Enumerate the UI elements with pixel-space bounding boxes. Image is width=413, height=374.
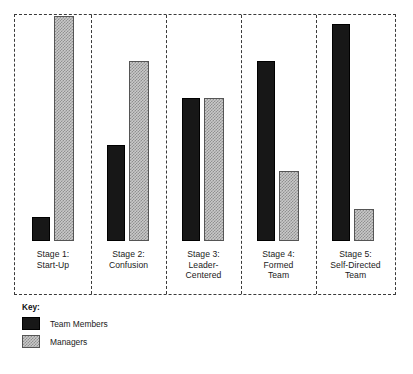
stage-label-3: Stage 3: Leader- Centered [166,249,241,281]
stage-label-1-line-2: Start-Up [15,260,91,271]
bar-chart-figure: Stage 1: Start-Up Stage 2: Confusion Sta… [0,0,413,374]
stage-label-3-line-2: Leader- [166,260,241,271]
chart-legend: Key: Team Members Managers [22,303,242,352]
legend-swatch-team-members-icon [22,317,40,330]
stage-label-2: Stage 2: Confusion [91,249,166,270]
stage-label-5: Stage 5: Self-Directed Team [316,249,395,281]
stage-label-4-line-3: Team [241,270,316,281]
stage-label-5-line-1: Stage 5: [316,249,395,260]
stage-label-3-line-3: Centered [166,270,241,281]
legend-swatch-managers-icon [22,335,40,348]
stage-label-3-line-1: Stage 3: [166,249,241,260]
legend-entry-managers: Managers [22,334,242,349]
stage-label-4-line-2: Formed [241,260,316,271]
stage-label-1-line-1: Stage 1: [15,249,91,260]
stage-label-4: Stage 4: Formed Team [241,249,316,281]
legend-label-team-members: Team Members [50,319,108,329]
legend-title: Key: [22,303,242,313]
stage-label-2-line-2: Confusion [91,260,166,271]
legend-label-managers: Managers [50,337,87,347]
legend-entry-team-members: Team Members [22,316,242,331]
stage-label-2-line-1: Stage 2: [91,249,166,260]
chart-plot-area: Stage 1: Start-Up Stage 2: Confusion Sta… [14,14,396,295]
stage-label-1: Stage 1: Start-Up [15,249,91,270]
stage-labels-layer: Stage 1: Start-Up Stage 2: Confusion Sta… [15,15,395,294]
stage-label-4-line-1: Stage 4: [241,249,316,260]
stage-label-5-line-3: Team [316,270,395,281]
stage-label-5-line-2: Self-Directed [316,260,395,271]
